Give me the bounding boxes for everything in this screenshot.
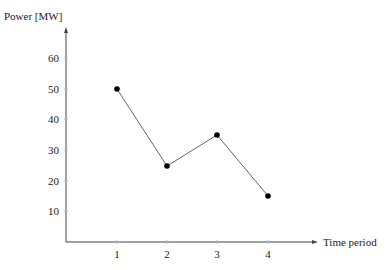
data-markers xyxy=(114,86,271,199)
data-point xyxy=(265,193,271,199)
data-point xyxy=(214,132,220,138)
y-axis-label: Power [MW] xyxy=(4,10,62,22)
y-tick-label: 60 xyxy=(48,52,60,64)
x-tick-label: 1 xyxy=(114,248,120,260)
line-chart: Power [MW] Time period 10 20 30 40 50 60… xyxy=(0,0,390,270)
data-series-line xyxy=(117,89,268,196)
x-tick-label: 3 xyxy=(214,248,220,260)
y-axis-arrow-icon xyxy=(64,27,68,33)
y-tick-label: 50 xyxy=(48,83,60,95)
data-point xyxy=(114,86,120,92)
x-axis-label: Time period xyxy=(323,236,377,248)
y-tick-label: 20 xyxy=(48,175,60,187)
y-ticks: 10 20 30 40 50 60 xyxy=(48,52,68,217)
y-tick-label: 10 xyxy=(48,205,60,217)
x-ticks: 1 2 3 4 xyxy=(114,240,271,260)
y-tick-label: 40 xyxy=(48,113,60,125)
x-tick-label: 2 xyxy=(164,248,170,260)
data-point xyxy=(164,163,170,169)
x-axis-arrow-icon xyxy=(312,240,318,244)
y-tick-label: 30 xyxy=(48,144,60,156)
x-tick-label: 4 xyxy=(265,248,271,260)
